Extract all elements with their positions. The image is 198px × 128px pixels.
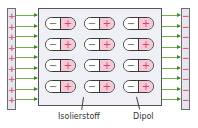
minus-charge: −	[182, 65, 189, 74]
field-arrow-icon	[16, 15, 37, 16]
dipole: −+	[45, 59, 76, 72]
minus-pole: −	[85, 81, 100, 92]
plus-pole: +	[100, 81, 114, 92]
plus-charge: +	[8, 54, 15, 63]
plus-pole: +	[139, 81, 153, 92]
dipole: −+	[123, 80, 154, 93]
plus-charge: +	[8, 44, 15, 53]
dipole: −+	[123, 59, 154, 72]
plus-pole: +	[139, 60, 153, 71]
field-arrow-icon	[162, 47, 180, 48]
minus-pole: −	[124, 18, 139, 29]
dipole: −+	[84, 80, 115, 93]
field-arrow-icon	[16, 89, 37, 90]
field-arrow-icon	[162, 57, 180, 58]
plus-pole: +	[61, 18, 75, 29]
field-arrow-icon	[16, 57, 37, 58]
field-arrow-icon	[162, 68, 180, 69]
minus-pole: −	[85, 18, 100, 29]
plus-pole: +	[100, 18, 114, 29]
minus-pole: −	[124, 60, 139, 71]
field-arrow-icon	[162, 36, 180, 37]
minus-charge: −	[182, 44, 189, 53]
plus-pole: +	[61, 81, 75, 92]
plus-pole: +	[139, 39, 153, 50]
field-arrow-icon	[162, 15, 180, 16]
plus-charge: +	[8, 33, 15, 42]
insulator-label: Isolierstoff	[58, 112, 100, 121]
field-arrow-icon	[16, 99, 37, 100]
plus-charge: +	[8, 23, 15, 32]
minus-pole: −	[46, 81, 61, 92]
field-arrow-icon	[162, 99, 180, 100]
field-arrow-icon	[16, 36, 37, 37]
plus-pole: +	[61, 39, 75, 50]
plus-charge: +	[8, 96, 15, 105]
field-arrow-icon	[16, 78, 37, 79]
plus-pole: +	[139, 18, 153, 29]
field-arrow-icon	[162, 89, 180, 90]
minus-pole: −	[46, 18, 61, 29]
minus-pole: −	[124, 39, 139, 50]
plus-charge: +	[8, 12, 15, 21]
plus-charge: +	[8, 75, 15, 84]
dipole: −+	[84, 17, 115, 30]
minus-pole: −	[85, 60, 100, 71]
minus-charge: −	[182, 23, 189, 32]
minus-charge: −	[182, 33, 189, 42]
dipole-label: Dipol	[133, 112, 154, 121]
positive-plate: + + + + + + + + +	[7, 8, 16, 110]
dipole: −+	[45, 17, 76, 30]
dipole: −+	[84, 38, 115, 51]
plus-pole: +	[100, 60, 114, 71]
plus-charge: +	[8, 86, 15, 95]
dipole: −+	[84, 59, 115, 72]
field-arrow-icon	[16, 26, 37, 27]
minus-charge: −	[182, 75, 189, 84]
dipole: −+	[123, 17, 154, 30]
dipole: −+	[45, 38, 76, 51]
field-arrow-icon	[162, 78, 180, 79]
plus-pole: +	[100, 39, 114, 50]
minus-pole: −	[46, 39, 61, 50]
minus-charge: −	[182, 12, 189, 21]
dipole: −+	[123, 38, 154, 51]
minus-pole: −	[46, 60, 61, 71]
minus-charge: −	[182, 96, 189, 105]
minus-charge: −	[182, 86, 189, 95]
minus-pole: −	[124, 81, 139, 92]
minus-pole: −	[85, 39, 100, 50]
field-arrow-icon	[162, 26, 180, 27]
negative-plate: − − − − − − − − −	[181, 8, 190, 110]
field-arrow-icon	[16, 47, 37, 48]
field-arrow-icon	[16, 68, 37, 69]
plus-charge: +	[8, 65, 15, 74]
plus-pole: +	[61, 60, 75, 71]
minus-charge: −	[182, 54, 189, 63]
dipole: −+	[45, 80, 76, 93]
